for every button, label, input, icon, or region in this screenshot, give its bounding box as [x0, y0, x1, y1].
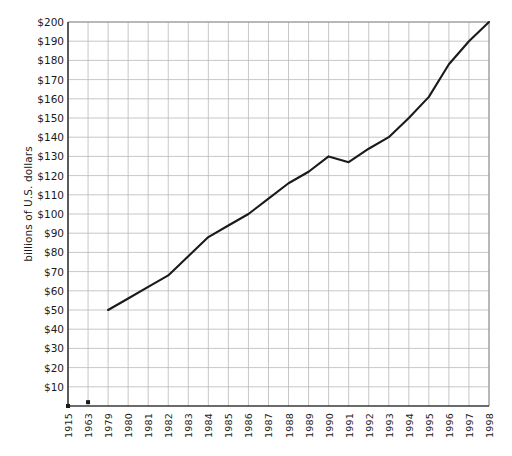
data-marker-1915 — [66, 404, 70, 408]
data-marker-1963 — [86, 400, 90, 404]
data-markers — [66, 400, 90, 408]
data-line — [108, 22, 489, 310]
grid-lines — [68, 22, 489, 406]
line-chart: billions of U.S. dollars $200$190$180$17… — [0, 0, 512, 456]
plot-area — [0, 0, 512, 456]
series-line-billions-of-U.S.-dollars — [108, 22, 489, 310]
